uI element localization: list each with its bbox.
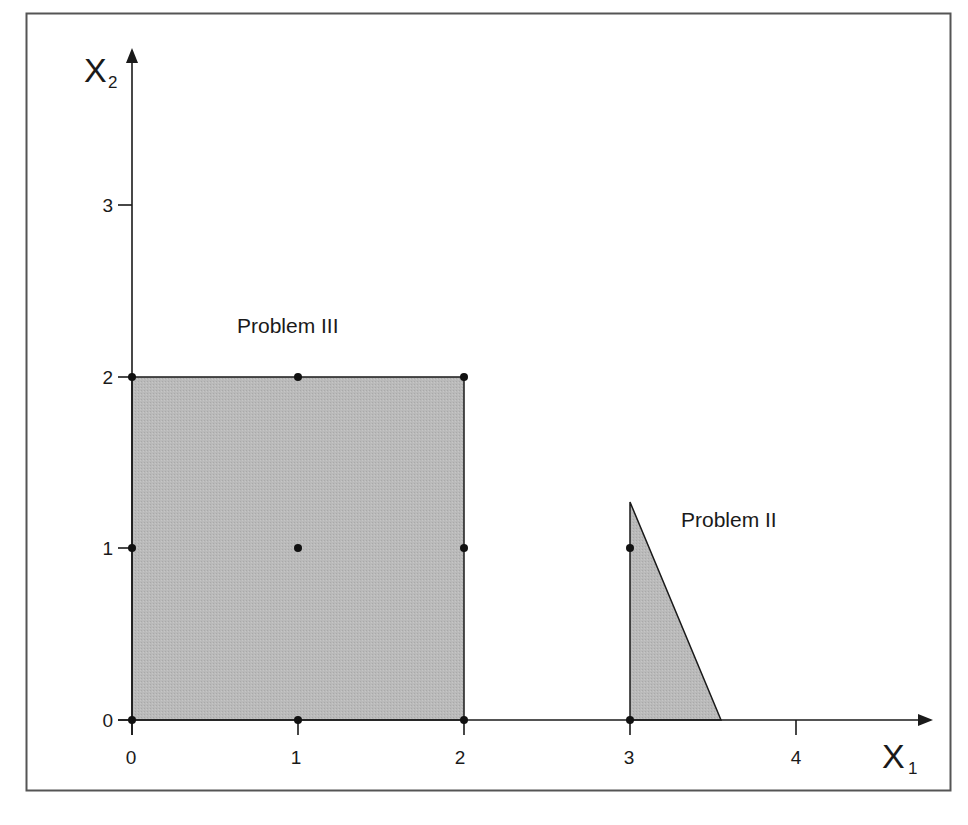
svg-text:2: 2 — [108, 73, 117, 92]
lattice-point — [128, 716, 136, 724]
lattice-point — [128, 544, 136, 552]
y-tick-label: 1 — [102, 538, 113, 559]
svg-text:X: X — [84, 51, 107, 89]
y-tick-label: 2 — [102, 367, 113, 388]
x-tick-label: 2 — [455, 747, 466, 768]
lattice-point — [294, 373, 302, 381]
lattice-point — [460, 373, 468, 381]
x-tick-label: 4 — [791, 747, 802, 768]
x-axis-arrow-icon — [918, 714, 933, 726]
lattice-point — [294, 716, 302, 724]
y-tick-label: 3 — [102, 195, 113, 216]
lattice-point — [128, 373, 136, 381]
lattice-point — [626, 716, 634, 724]
y-axis-label: X 2 — [84, 51, 117, 92]
x-axis-label: X 1 — [882, 737, 917, 778]
lattice-point — [626, 544, 634, 552]
svg-text:1: 1 — [908, 759, 917, 778]
lattice-point — [460, 544, 468, 552]
region-problem-ii — [630, 502, 721, 720]
y-ticks — [118, 205, 132, 720]
lattice-point — [294, 544, 302, 552]
y-axis-arrow-icon — [126, 48, 138, 63]
label-problem-ii: Problem II — [681, 508, 777, 531]
feasible-region-diagram: 0 1 2 3 4 0 1 2 3 X 1 X 2 Problem III Pr… — [0, 0, 968, 825]
x-tick-label: 0 — [126, 747, 137, 768]
lattice-point — [460, 716, 468, 724]
svg-text:X: X — [882, 737, 905, 775]
y-tick-label: 0 — [102, 710, 113, 731]
x-tick-label: 1 — [291, 747, 302, 768]
label-problem-iii: Problem III — [237, 314, 339, 337]
x-tick-label: 3 — [624, 747, 635, 768]
